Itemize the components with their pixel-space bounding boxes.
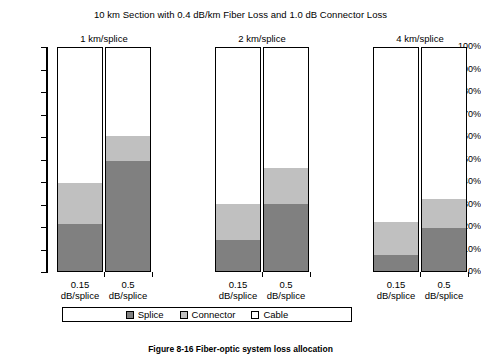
bar-segment-cable — [264, 48, 308, 168]
legend-item[interactable]: Splice — [126, 309, 164, 320]
x-axis-category-label: 0.5dB/splice — [95, 279, 161, 301]
bar-segment-splice — [106, 161, 150, 271]
x-axis-category-value: 0.5 — [95, 279, 161, 290]
stacked-bar[interactable] — [57, 47, 103, 272]
y-axis-tick-mark — [41, 182, 47, 183]
legend-swatch-icon — [180, 311, 188, 319]
bar-segment-splice — [58, 224, 102, 271]
x-axis-tick-mark — [420, 272, 421, 277]
x-axis-tick-mark — [262, 272, 263, 277]
bar-segment-cable — [374, 48, 418, 222]
stacked-bar[interactable] — [263, 47, 309, 272]
y-axis-tick-mark — [41, 227, 47, 228]
bar-segment-splice — [422, 228, 466, 271]
legend-label: Connector — [192, 309, 236, 320]
bar-segment-connector — [422, 199, 466, 228]
x-axis-category-label: 0.5dB/splice — [411, 279, 477, 301]
bar-segment-splice — [374, 255, 418, 271]
bar-segment-cable — [216, 48, 260, 204]
x-axis-category-unit: dB/splice — [411, 290, 477, 301]
bar-group-label: 1 km/splice — [57, 33, 151, 44]
x-axis-tick-mark — [152, 272, 153, 277]
legend-label: Cable — [263, 309, 288, 320]
y-axis-tick-mark — [41, 272, 47, 273]
legend-swatch-icon — [126, 311, 134, 319]
legend-label: Splice — [138, 309, 164, 320]
stacked-bar[interactable] — [421, 47, 467, 272]
bar-segment-cable — [58, 48, 102, 183]
bar-segment-splice — [216, 240, 260, 272]
bar-segment-connector — [58, 183, 102, 224]
x-axis-tick-mark — [310, 272, 311, 277]
bar-group-label: 2 km/splice — [215, 33, 309, 44]
bar-segment-connector — [106, 136, 150, 161]
x-axis-category-unit: dB/splice — [253, 290, 319, 301]
y-axis-tick-mark — [41, 92, 47, 93]
y-axis-tick-mark — [41, 250, 47, 251]
bar-segment-cable — [106, 48, 150, 136]
y-axis-tick-mark — [41, 115, 47, 116]
stacked-bar[interactable] — [215, 47, 261, 272]
x-axis-category-unit: dB/splice — [95, 290, 161, 301]
stacked-bar[interactable] — [105, 47, 151, 272]
bar-segment-connector — [216, 204, 260, 240]
x-axis-tick-mark — [468, 272, 469, 277]
bar-segment-connector — [374, 222, 418, 256]
bar-segment-connector — [264, 168, 308, 204]
stacked-bar[interactable] — [373, 47, 419, 272]
bar-group-label: 4 km/splice — [373, 33, 467, 44]
legend-item[interactable]: Cable — [251, 309, 288, 320]
y-axis-tick-mark — [41, 70, 47, 71]
y-axis-tick-mark — [41, 137, 47, 138]
y-axis-tick-mark — [41, 205, 47, 206]
x-axis-category-value: 0.5 — [253, 279, 319, 290]
chart-legend: SpliceConnectorCable — [62, 307, 352, 322]
x-axis-category-label: 0.5dB/splice — [253, 279, 319, 301]
x-axis-tick-mark — [104, 272, 105, 277]
y-axis-tick-mark — [41, 47, 47, 48]
bar-segment-splice — [264, 204, 308, 272]
y-axis-tick-mark — [41, 160, 47, 161]
legend-item[interactable]: Connector — [180, 309, 236, 320]
bar-segment-cable — [422, 48, 466, 199]
figure-caption: Figure 8-16 Fiber-optic system loss allo… — [0, 344, 481, 354]
x-axis-category-value: 0.5 — [411, 279, 477, 290]
legend-swatch-icon — [251, 311, 259, 319]
